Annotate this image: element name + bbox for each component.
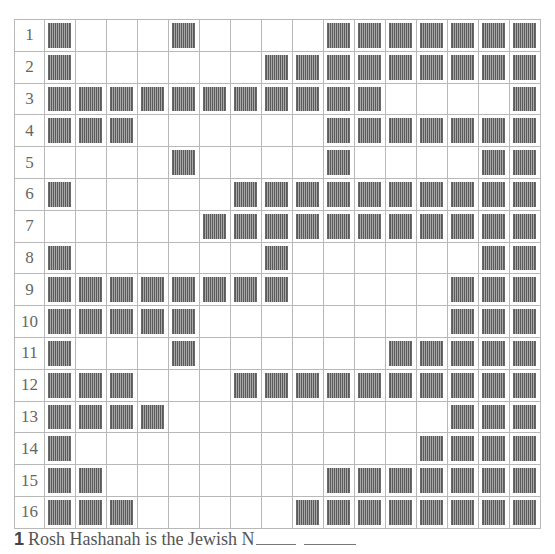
blank-cell[interactable] — [169, 115, 200, 147]
blank-cell[interactable] — [293, 465, 324, 497]
blank-cell[interactable] — [138, 433, 169, 465]
blank-cell[interactable] — [200, 337, 231, 369]
blank-cell[interactable] — [138, 115, 169, 147]
blank-cell[interactable] — [448, 83, 479, 115]
blank-cell[interactable] — [355, 306, 386, 338]
blank-cell[interactable] — [138, 242, 169, 274]
blank-cell[interactable] — [138, 465, 169, 497]
blank-cell[interactable] — [231, 147, 262, 179]
blank-cell[interactable] — [386, 433, 417, 465]
blank-cell[interactable] — [231, 20, 262, 52]
blank-cell[interactable] — [138, 20, 169, 52]
answer-blank-2[interactable] — [304, 529, 356, 545]
blank-cell[interactable] — [355, 337, 386, 369]
blank-cell[interactable] — [417, 274, 448, 306]
blank-cell[interactable] — [169, 496, 200, 528]
blank-cell[interactable] — [324, 274, 355, 306]
blank-cell[interactable] — [386, 83, 417, 115]
blank-cell[interactable] — [355, 401, 386, 433]
blank-cell[interactable] — [355, 242, 386, 274]
blank-cell[interactable] — [169, 51, 200, 83]
blank-cell[interactable] — [107, 147, 138, 179]
blank-cell[interactable] — [293, 274, 324, 306]
blank-cell[interactable] — [231, 337, 262, 369]
blank-cell[interactable] — [262, 20, 293, 52]
blank-cell[interactable] — [45, 147, 76, 179]
blank-cell[interactable] — [293, 401, 324, 433]
blank-cell[interactable] — [386, 306, 417, 338]
blank-cell[interactable] — [76, 178, 107, 210]
blank-cell[interactable] — [417, 83, 448, 115]
blank-cell[interactable] — [386, 147, 417, 179]
blank-cell[interactable] — [169, 242, 200, 274]
blank-cell[interactable] — [262, 147, 293, 179]
blank-cell[interactable] — [417, 401, 448, 433]
blank-cell[interactable] — [200, 306, 231, 338]
blank-cell[interactable] — [231, 115, 262, 147]
blank-cell[interactable] — [107, 210, 138, 242]
blank-cell[interactable] — [76, 51, 107, 83]
blank-cell[interactable] — [262, 115, 293, 147]
blank-cell[interactable] — [417, 306, 448, 338]
blank-cell[interactable] — [138, 210, 169, 242]
blank-cell[interactable] — [479, 83, 510, 115]
blank-cell[interactable] — [231, 242, 262, 274]
blank-cell[interactable] — [386, 242, 417, 274]
blank-cell[interactable] — [231, 496, 262, 528]
blank-cell[interactable] — [107, 51, 138, 83]
blank-cell[interactable] — [293, 20, 324, 52]
blank-cell[interactable] — [231, 465, 262, 497]
blank-cell[interactable] — [262, 337, 293, 369]
blank-cell[interactable] — [231, 401, 262, 433]
blank-cell[interactable] — [169, 369, 200, 401]
blank-cell[interactable] — [324, 242, 355, 274]
blank-cell[interactable] — [448, 147, 479, 179]
blank-cell[interactable] — [293, 337, 324, 369]
blank-cell[interactable] — [169, 401, 200, 433]
answer-blank-1[interactable] — [256, 529, 296, 545]
blank-cell[interactable] — [107, 178, 138, 210]
blank-cell[interactable] — [200, 115, 231, 147]
blank-cell[interactable] — [200, 496, 231, 528]
blank-cell[interactable] — [138, 369, 169, 401]
blank-cell[interactable] — [355, 433, 386, 465]
blank-cell[interactable] — [386, 401, 417, 433]
blank-cell[interactable] — [200, 465, 231, 497]
blank-cell[interactable] — [200, 147, 231, 179]
blank-cell[interactable] — [138, 496, 169, 528]
blank-cell[interactable] — [169, 210, 200, 242]
blank-cell[interactable] — [200, 20, 231, 52]
blank-cell[interactable] — [262, 496, 293, 528]
blank-cell[interactable] — [293, 115, 324, 147]
blank-cell[interactable] — [293, 306, 324, 338]
blank-cell[interactable] — [200, 51, 231, 83]
blank-cell[interactable] — [324, 306, 355, 338]
blank-cell[interactable] — [107, 20, 138, 52]
blank-cell[interactable] — [76, 337, 107, 369]
blank-cell[interactable] — [417, 242, 448, 274]
blank-cell[interactable] — [417, 147, 448, 179]
blank-cell[interactable] — [107, 242, 138, 274]
blank-cell[interactable] — [107, 433, 138, 465]
blank-cell[interactable] — [169, 465, 200, 497]
blank-cell[interactable] — [355, 274, 386, 306]
blank-cell[interactable] — [107, 337, 138, 369]
blank-cell[interactable] — [324, 401, 355, 433]
blank-cell[interactable] — [45, 210, 76, 242]
blank-cell[interactable] — [138, 51, 169, 83]
blank-cell[interactable] — [355, 147, 386, 179]
blank-cell[interactable] — [76, 242, 107, 274]
blank-cell[interactable] — [169, 178, 200, 210]
blank-cell[interactable] — [200, 401, 231, 433]
blank-cell[interactable] — [262, 401, 293, 433]
blank-cell[interactable] — [138, 147, 169, 179]
blank-cell[interactable] — [231, 51, 262, 83]
blank-cell[interactable] — [324, 433, 355, 465]
blank-cell[interactable] — [76, 210, 107, 242]
blank-cell[interactable] — [386, 274, 417, 306]
blank-cell[interactable] — [138, 178, 169, 210]
blank-cell[interactable] — [262, 465, 293, 497]
blank-cell[interactable] — [293, 242, 324, 274]
blank-cell[interactable] — [324, 337, 355, 369]
blank-cell[interactable] — [448, 242, 479, 274]
